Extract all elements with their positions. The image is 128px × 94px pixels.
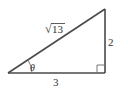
hypotenuse-value: 13 <box>52 23 64 35</box>
right-angle-marker <box>97 65 105 73</box>
hypotenuse-label: √ 13 <box>45 22 65 36</box>
radical-sign: √ <box>45 22 52 36</box>
hypotenuse-side <box>8 9 105 73</box>
angle-label: θ <box>30 62 35 73</box>
right-triangle-diagram: √ 13 2 3 θ <box>0 0 128 94</box>
adjacent-label: 3 <box>53 76 59 88</box>
opposite-label: 2 <box>108 36 114 48</box>
